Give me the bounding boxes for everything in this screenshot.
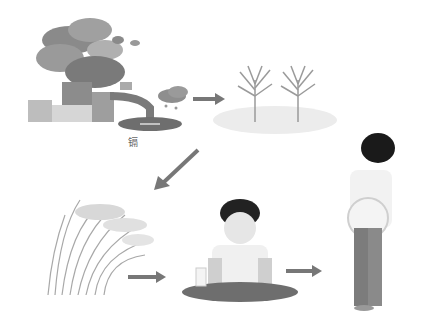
arrow-right-icon bbox=[128, 271, 166, 283]
diagram-canvas bbox=[0, 0, 433, 336]
rice-crop-icon bbox=[48, 200, 154, 295]
cadmium-label: 镉 bbox=[128, 134, 138, 149]
factory-icon bbox=[28, 18, 188, 131]
arrow-right-icon bbox=[193, 93, 225, 105]
rice-paddy-icon bbox=[213, 66, 337, 134]
person-eating-icon bbox=[182, 199, 298, 302]
arrow-right-icon bbox=[286, 265, 322, 277]
arrow-diagonal-icon bbox=[154, 150, 198, 190]
person-ill-icon bbox=[348, 133, 395, 311]
